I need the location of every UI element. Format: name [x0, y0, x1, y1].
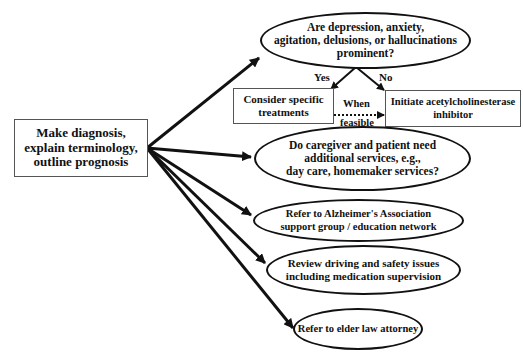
no-label: No — [379, 71, 392, 84]
root-box: Make diagnosis, explain terminology, out… — [14, 119, 148, 177]
question1-text: Are depression, anxiety, agitation, delu… — [274, 21, 457, 61]
no-box-text: Initiate acetylcholinesterase inhibitor — [391, 96, 516, 120]
arrow-to-alzheimers — [147, 148, 251, 215]
question2-ellipse: Do caregiver and patient need additional… — [254, 126, 471, 191]
yes-label: Yes — [314, 71, 330, 84]
arrow-to-driving — [147, 148, 265, 263]
yes-box-text: Consider specific treatments — [243, 93, 323, 118]
question1-ellipse: Are depression, anxiety, agitation, delu… — [260, 12, 471, 69]
driving-ellipse: Review driving and safety issues includi… — [266, 245, 461, 295]
arrow-yes — [331, 67, 356, 89]
no-box: Initiate acetylcholinesterase inhibitor — [385, 90, 521, 127]
alzheimers-ellipse: Refer to Alzheimer's Association support… — [253, 199, 464, 242]
elder-law-text: Refer to elder law attorney — [298, 323, 418, 335]
driving-text: Review driving and safety issues includi… — [286, 257, 441, 282]
root-text: Make diagnosis, explain terminology, out… — [24, 126, 137, 171]
yes-box: Consider specific treatments — [233, 88, 334, 124]
alzheimers-text: Refer to Alzheimer's Association support… — [280, 208, 436, 232]
elder-law-ellipse: Refer to elder law attorney — [293, 308, 423, 350]
arrow-to-question2 — [147, 148, 251, 157]
question2-text: Do caregiver and patient need additional… — [286, 139, 439, 179]
when-label: When — [343, 98, 370, 110]
